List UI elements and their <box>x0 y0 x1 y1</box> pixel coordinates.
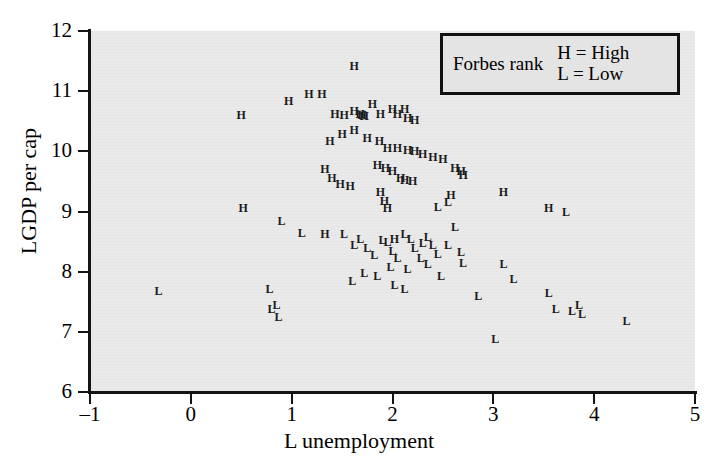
data-point-l: L <box>298 227 306 239</box>
data-point-h: H <box>325 135 334 147</box>
data-point-l: L <box>275 311 283 323</box>
data-point-l: L <box>459 257 467 269</box>
data-point-h: H <box>393 142 402 154</box>
data-point-h: H <box>383 202 392 214</box>
y-tick-label: 11 <box>44 80 72 101</box>
y-tick-label: 10 <box>44 140 72 161</box>
data-point-h: H <box>499 186 508 198</box>
data-point-h: H <box>350 60 359 72</box>
data-point-l: L <box>437 270 445 282</box>
data-point-h: H <box>337 128 346 140</box>
data-point-h: H <box>458 169 467 181</box>
data-point-l: L <box>373 270 381 282</box>
x-tick-label: 5 <box>675 404 715 425</box>
data-point-h: H <box>339 109 348 121</box>
data-point-l: L <box>424 258 432 270</box>
data-point-l: L <box>444 196 452 208</box>
data-point-l: L <box>509 273 517 285</box>
y-tick-label: 8 <box>44 261 72 282</box>
data-point-h: H <box>239 202 248 214</box>
data-point-l: L <box>434 248 442 260</box>
data-point-h: H <box>320 228 329 240</box>
data-point-h: H <box>544 202 553 214</box>
data-point-l: L <box>491 333 499 345</box>
data-point-l: L <box>348 275 356 287</box>
y-tick-label: 7 <box>44 321 72 342</box>
data-point-l: L <box>552 303 560 315</box>
data-point-h: H <box>376 108 385 120</box>
data-point-h: H <box>410 114 419 126</box>
legend-entry-low: L = Low <box>557 64 629 85</box>
data-point-h: H <box>360 110 369 122</box>
data-point-h: H <box>335 178 344 190</box>
x-axis-title: L unemployment <box>0 428 718 454</box>
y-tick-label: 9 <box>44 201 72 222</box>
y-tick-mark <box>78 30 89 32</box>
data-point-l: L <box>434 201 442 213</box>
y-tick-mark <box>78 271 89 273</box>
data-point-l: L <box>278 215 286 227</box>
data-point-h: H <box>345 180 354 192</box>
x-tick-label: 0 <box>171 404 211 425</box>
legend-entries: H = High L = Low <box>557 43 629 84</box>
y-tick-label: 6 <box>44 381 72 402</box>
data-point-h: H <box>418 148 427 160</box>
data-point-h: H <box>317 88 326 100</box>
data-point-l: L <box>545 287 553 299</box>
data-point-h: H <box>304 88 313 100</box>
y-tick-label: 12 <box>44 20 72 41</box>
y-axis-title: LGDP per cap <box>16 96 42 286</box>
legend-entry-high: H = High <box>557 43 629 64</box>
data-point-l: L <box>499 258 507 270</box>
y-tick-mark <box>78 211 89 213</box>
legend: Forbes rank H = High L = Low <box>440 33 680 95</box>
data-point-l: L <box>391 279 399 291</box>
data-point-h: H <box>330 108 339 120</box>
data-point-l: L <box>404 263 412 275</box>
data-point-l: L <box>451 221 459 233</box>
data-point-l: L <box>474 290 482 302</box>
y-tick-mark <box>78 150 89 152</box>
y-tick-mark <box>78 391 89 393</box>
data-point-l: L <box>622 315 630 327</box>
data-point-h: H <box>363 132 372 144</box>
data-point-l: L <box>265 283 273 295</box>
data-point-h: H <box>350 124 359 136</box>
x-tick-label: 1 <box>272 404 312 425</box>
data-point-l: L <box>578 308 586 320</box>
data-point-h: H <box>438 153 447 165</box>
data-point-l: L <box>386 261 394 273</box>
x-tick-label: 3 <box>473 404 513 425</box>
data-point-l: L <box>444 239 452 251</box>
data-point-l: L <box>370 249 378 261</box>
data-point-h: H <box>284 95 293 107</box>
data-point-h: H <box>428 151 437 163</box>
data-point-h: H <box>383 142 392 154</box>
x-tick-label: –1 <box>70 404 110 425</box>
y-tick-mark <box>78 90 89 92</box>
x-tick-label: 4 <box>574 404 614 425</box>
data-point-l: L <box>360 267 368 279</box>
data-point-l: L <box>401 283 409 295</box>
legend-title: Forbes rank <box>453 53 543 75</box>
data-point-l: L <box>562 206 570 218</box>
x-tick-label: 2 <box>373 404 413 425</box>
y-tick-mark <box>78 331 89 333</box>
data-point-l: L <box>394 252 402 264</box>
data-point-l: L <box>155 285 163 297</box>
data-point-l: L <box>340 228 348 240</box>
data-point-h: H <box>408 175 417 187</box>
data-point-h: H <box>237 109 246 121</box>
scatter-plot-figure: 6789101112 –1012345 LGDP per cap L unemp… <box>0 0 718 462</box>
